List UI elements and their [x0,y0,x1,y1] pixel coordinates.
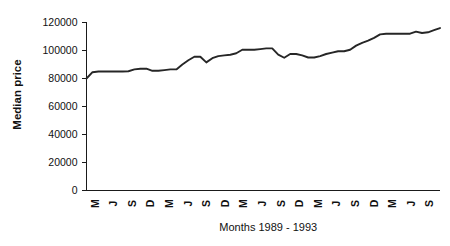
median-price-line-chart: 020000400006000080000100000120000 MJSDMJ… [0,0,450,246]
y-tick-labels: 020000400006000080000100000120000 [42,16,77,196]
chart-canvas: 020000400006000080000100000120000 MJSDMJ… [0,0,450,246]
x-axis-group: MJSDMJSDMJSDMJSDMJS [87,191,441,208]
x-tick-labels: MJSDMJSDMJSDMJSDMJS [89,199,436,208]
x-tick-label: M [386,199,398,208]
y-tick-label: 0 [72,184,78,196]
y-tick-label: 100000 [42,44,77,56]
x-tick-label: J [182,200,194,206]
x-tick-label: M [237,199,249,208]
x-tick-label: D [368,199,380,207]
x-tick-label: S [275,200,287,207]
x-tick-label: J [330,200,342,206]
x-tick-label: S [126,200,138,207]
y-tick-label: 40000 [48,128,77,140]
y-tick-label: 60000 [48,100,77,112]
y-tick-label: 80000 [48,72,77,84]
plot-series-group [87,28,441,78]
x-tick-label: D [144,199,156,207]
x-tick-label: D [219,199,231,207]
x-tick-label: J [256,200,268,206]
y-tick-label: 20000 [48,156,77,168]
x-tick-label: M [312,199,324,208]
x-tick-label: J [107,200,119,206]
x-tick-label: J [405,200,417,206]
y-axis-title: Median price [11,59,23,129]
y-tick-label: 120000 [42,16,77,28]
x-axis-title: Months 1989 - 1993 [219,221,317,233]
y-axis-group: 020000400006000080000100000120000 [42,16,87,196]
x-tick-label: D [293,199,305,207]
x-tick-label: M [89,199,101,208]
x-tick-label: S [200,200,212,207]
x-tick-label: S [349,200,361,207]
x-tick-label: S [423,200,435,207]
x-tick-label: M [163,199,175,208]
data-line-median-price [87,28,441,78]
